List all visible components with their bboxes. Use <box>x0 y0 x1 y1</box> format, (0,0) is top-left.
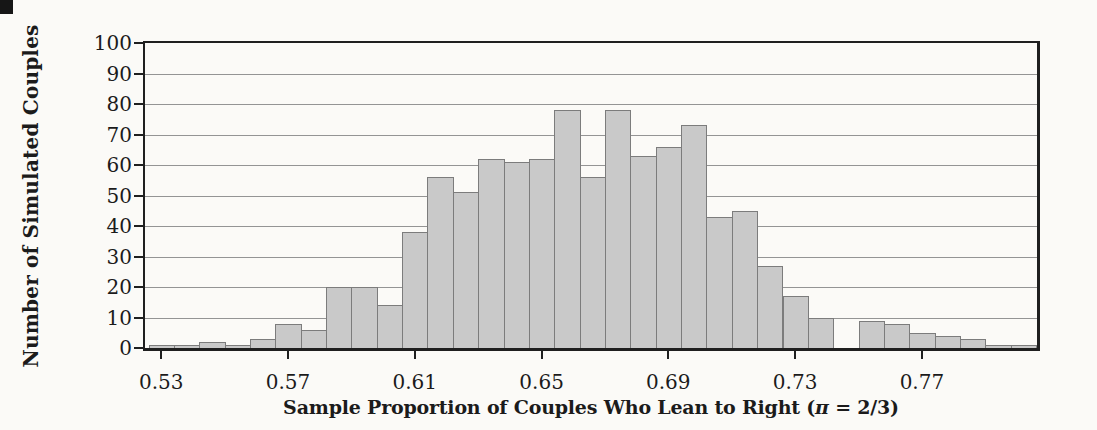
x-tick <box>667 351 669 359</box>
x-tick <box>541 351 543 359</box>
y-tick <box>134 347 143 349</box>
y-tick-label: 20 <box>90 275 132 299</box>
histogram-bar <box>250 339 276 348</box>
x-tick-label: 0.73 <box>773 370 818 394</box>
y-tick <box>134 195 143 197</box>
y-axis-title: Number of Simulated Couples <box>19 24 43 367</box>
histogram-bar <box>706 217 732 348</box>
histogram-bar <box>326 287 352 348</box>
histogram-bar <box>960 339 986 348</box>
x-axis-title: Sample Proportion of Couples Who Lean to… <box>283 396 899 418</box>
histogram-bar <box>199 342 225 348</box>
histogram-bar <box>732 211 758 348</box>
histogram-bar <box>884 324 910 348</box>
y-tick-label: 60 <box>90 153 132 177</box>
histogram-bar <box>935 336 961 348</box>
y-tick-label: 40 <box>90 214 132 238</box>
histogram-bar <box>174 345 200 348</box>
histogram-bar <box>301 330 327 348</box>
histogram-bar <box>656 147 682 348</box>
x-axis-title-text: Sample Proportion of Couples Who Lean to… <box>283 396 815 418</box>
histogram-bar <box>453 192 479 348</box>
x-tick-label: 0.57 <box>266 370 311 394</box>
y-tick <box>134 164 143 166</box>
histogram-bar <box>1011 345 1037 348</box>
y-tick <box>134 317 143 319</box>
histogram-bar <box>478 159 504 348</box>
y-tick <box>134 256 143 258</box>
histogram-bar <box>681 125 707 348</box>
histogram-bar <box>757 266 783 348</box>
y-tick-label: 80 <box>90 92 132 116</box>
histogram-bar <box>580 177 606 348</box>
y-tick <box>134 225 143 227</box>
histogram-bar <box>149 345 175 348</box>
histogram-bar <box>402 232 428 348</box>
histogram-bar <box>605 110 631 348</box>
histogram-bar <box>504 162 530 348</box>
y-tick <box>134 103 143 105</box>
x-tick <box>794 351 796 359</box>
x-tick <box>414 351 416 359</box>
histogram-bar <box>529 159 555 348</box>
y-tick-label: 100 <box>90 31 132 55</box>
x-tick-label: 0.77 <box>900 370 945 394</box>
x-tick-label: 0.61 <box>393 370 438 394</box>
x-axis-title-suffix: = 2/3) <box>829 396 899 418</box>
x-tick-label: 0.69 <box>646 370 691 394</box>
y-tick-label: 70 <box>90 122 132 146</box>
y-tick <box>134 286 143 288</box>
y-tick-label: 90 <box>90 61 132 85</box>
histogram-bar <box>225 345 251 348</box>
histogram-bar <box>909 333 935 348</box>
histogram-bar <box>808 318 834 349</box>
histogram-bar <box>985 345 1011 348</box>
x-tick-label: 0.53 <box>139 370 184 394</box>
plot-area <box>143 41 1040 351</box>
x-tick <box>921 351 923 359</box>
page-corner-mark <box>0 0 13 14</box>
histogram-figure: Number of Simulated Couples 010203040506… <box>0 0 1097 430</box>
histogram-bar <box>275 324 301 348</box>
y-tick <box>134 134 143 136</box>
y-tick <box>134 73 143 75</box>
histogram-bar <box>859 321 885 348</box>
gridline-y-60 <box>145 165 1037 166</box>
histogram-bar <box>351 287 377 348</box>
gridline-y-70 <box>145 135 1037 136</box>
histogram-bar <box>630 156 656 348</box>
y-tick <box>134 42 143 44</box>
y-tick-label: 50 <box>90 183 132 207</box>
histogram-bar <box>554 110 580 348</box>
x-tick-label: 0.65 <box>519 370 564 394</box>
histogram-bar <box>783 296 809 348</box>
histogram-bar <box>377 305 403 348</box>
gridline-y-80 <box>145 104 1037 105</box>
y-tick-label: 30 <box>90 244 132 268</box>
x-tick <box>287 351 289 359</box>
gridline-y-90 <box>145 74 1037 75</box>
histogram-bar <box>427 177 453 348</box>
y-tick-label: 10 <box>90 305 132 329</box>
y-tick-label: 0 <box>90 336 132 360</box>
pi-symbol: π <box>815 396 829 418</box>
x-tick <box>160 351 162 359</box>
